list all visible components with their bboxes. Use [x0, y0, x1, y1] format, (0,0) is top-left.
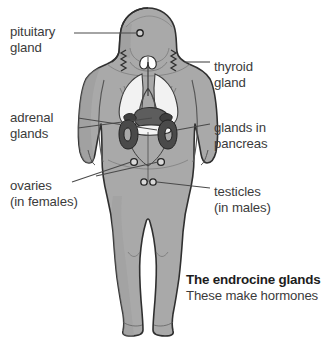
ovary-left-icon: [131, 159, 138, 166]
label-adrenal-line2: glands: [10, 126, 53, 142]
label-testicles-line1: testicles: [214, 184, 271, 200]
label-thyroid-line2: gland: [214, 75, 253, 91]
label-ovaries-line2: (in females): [10, 194, 78, 210]
label-pancreas-line2: pancreas: [214, 136, 267, 152]
label-adrenal-glands: adrenal glands: [10, 110, 53, 141]
label-testicles-line2: (in males): [214, 200, 271, 216]
label-thyroid-line1: thyroid: [214, 59, 253, 75]
label-glands-in-pancreas: glands in pancreas: [214, 120, 267, 151]
testicle-right-icon: [150, 179, 156, 185]
label-pancreas-line1: glands in: [214, 120, 267, 136]
caption-title: The endrocine glands: [186, 272, 326, 288]
pituitary-gland-icon: [137, 30, 143, 36]
ovary-right-icon: [158, 159, 165, 166]
endocrine-glands-diagram: pituitary gland adrenal glands ovaries (…: [0, 0, 329, 345]
label-thyroid-gland: thyroid gland: [214, 59, 253, 90]
diagram-caption: The endrocine glands These make hormones: [186, 272, 326, 304]
thyroid-gland-icon: [140, 56, 157, 69]
label-testicles: testicles (in males): [214, 184, 271, 215]
label-pituitary-line2: gland: [10, 40, 55, 56]
label-ovaries: ovaries (in females): [10, 178, 78, 209]
caption-subtitle: These make hormones: [186, 288, 326, 304]
testicle-left-icon: [141, 179, 147, 185]
label-ovaries-line1: ovaries: [10, 178, 78, 194]
label-adrenal-line1: adrenal: [10, 110, 53, 126]
label-pituitary-line1: pituitary: [10, 24, 55, 40]
label-pituitary-gland: pituitary gland: [10, 24, 55, 55]
